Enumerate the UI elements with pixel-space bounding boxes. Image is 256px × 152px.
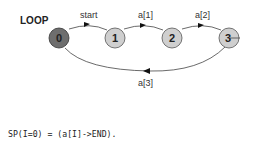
edge-label-a1: a[1] bbox=[138, 10, 153, 20]
edge-label-a3: a[3] bbox=[138, 78, 153, 88]
state-node-2: 2 bbox=[162, 28, 182, 48]
diagram-title: LOOP bbox=[20, 15, 49, 26]
state-diagram: LOOP start a[1] a[2] a[3] 0 1 2 3 bbox=[0, 0, 256, 100]
state-node-0: 0 bbox=[49, 28, 69, 48]
edge-a3: a[3] bbox=[65, 47, 225, 88]
edge-label-start: start bbox=[80, 10, 98, 20]
state-node-3: 3 bbox=[219, 28, 240, 48]
edge-label-a2: a[2] bbox=[195, 10, 210, 20]
edge-a2: a[2] bbox=[182, 10, 221, 30]
svg-text:2: 2 bbox=[169, 32, 175, 44]
fsp-code: SP(I=0) = (a[I]->END). P123 = (start -> … bbox=[8, 99, 205, 152]
code-line-sp: SP(I=0) = (a[I]->END). bbox=[8, 127, 205, 141]
edge-start: start bbox=[69, 10, 107, 30]
svg-text:1: 1 bbox=[112, 32, 118, 44]
svg-text:0: 0 bbox=[56, 32, 62, 44]
edge-a1: a[1] bbox=[124, 10, 163, 30]
svg-text:3: 3 bbox=[225, 32, 231, 44]
state-node-1: 1 bbox=[105, 28, 125, 48]
